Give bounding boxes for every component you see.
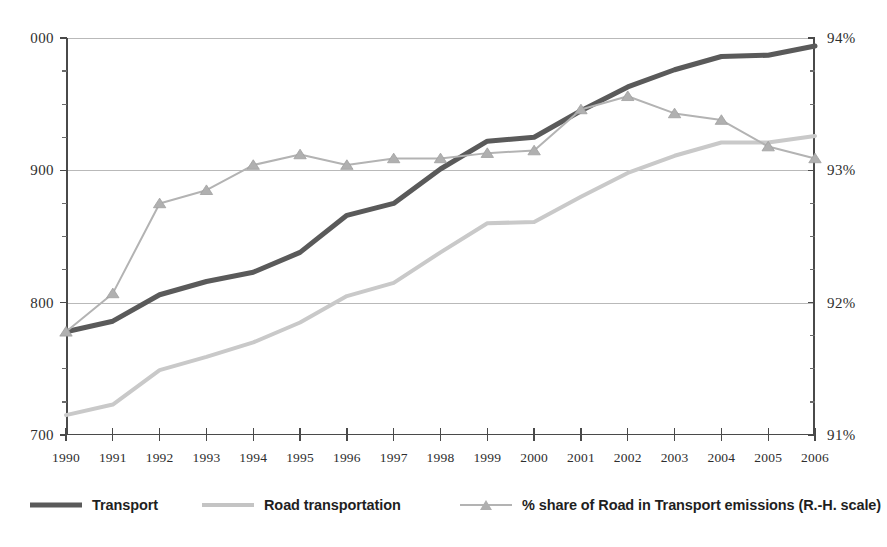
legend-line-icon: [202, 503, 254, 507]
legend-triangle-marker-icon: [480, 500, 492, 510]
chart-legend: TransportRoad transportation% share of R…: [30, 492, 870, 518]
left-tick-label: 700: [30, 427, 54, 444]
left-tick-label: 000: [30, 30, 54, 47]
series-line: [66, 96, 815, 332]
x-tick-label: 1990: [52, 450, 80, 466]
x-tick-label: 1992: [146, 450, 174, 466]
x-tick-label: 2006: [801, 450, 829, 466]
x-tick-label: 1991: [99, 450, 127, 466]
series-2: [66, 136, 815, 415]
series-line: [66, 136, 815, 415]
x-tick-label: 1997: [380, 450, 408, 466]
plot-area: 700800900000 91%92%93%94% 19901991199219…: [66, 38, 815, 435]
right-tick-label: 93%: [827, 162, 856, 179]
x-tick-label: 2004: [707, 450, 735, 466]
series-1: [66, 46, 815, 332]
x-tick-label: 2001: [567, 450, 595, 466]
right-tick-label: 91%: [827, 427, 856, 444]
x-tick-label: 1996: [333, 450, 361, 466]
series-3: [60, 91, 821, 336]
left-tick-label: 800: [30, 294, 54, 311]
x-tick-label: 1999: [473, 450, 501, 466]
x-tick-label: 2005: [754, 450, 782, 466]
series-marker-triangle: [200, 185, 212, 195]
x-tick-label: 1993: [193, 450, 221, 466]
series-marker-triangle: [622, 91, 634, 101]
legend-item-1[interactable]: Transport: [30, 492, 158, 518]
right-tick-label: 94%: [827, 30, 856, 47]
legend-label: Transport: [92, 497, 158, 513]
legend-swatch-icon: [460, 498, 512, 512]
x-tick-label: 1998: [427, 450, 455, 466]
x-tick-label: 1994: [239, 450, 267, 466]
legend-swatch-icon: [30, 498, 82, 512]
x-tick-label: 2000: [520, 450, 548, 466]
series-marker-triangle: [294, 149, 306, 159]
legend-item-3[interactable]: % share of Road in Transport emissions (…: [460, 492, 881, 518]
right-tick-label: 92%: [827, 294, 856, 311]
chart-figure: 700800900000 91%92%93%94% 19901991199219…: [0, 0, 887, 547]
legend-swatch-icon: [202, 498, 254, 512]
legend-label: Road transportation: [264, 497, 401, 513]
x-tick-label: 2002: [614, 450, 642, 466]
x-tick-label: 1995: [286, 450, 314, 466]
series-layer: [66, 38, 815, 435]
x-tick-label: 2003: [661, 450, 689, 466]
series-marker-triangle: [107, 288, 119, 298]
series-line: [66, 46, 815, 332]
legend-label: % share of Road in Transport emissions (…: [522, 497, 881, 513]
legend-line-icon: [30, 503, 82, 508]
left-tick-label: 900: [30, 162, 54, 179]
legend-item-2[interactable]: Road transportation: [202, 492, 401, 518]
series-marker-triangle: [668, 108, 680, 118]
